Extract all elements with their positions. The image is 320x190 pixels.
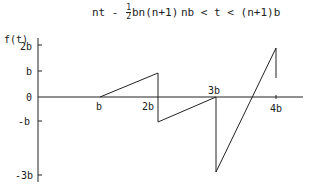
y-tick-2b: 2b	[20, 41, 32, 52]
x-tick-b: b	[96, 101, 102, 112]
y-tick-minus-3b: -3b	[15, 170, 33, 181]
y-tick-0: 0	[26, 92, 32, 103]
sawtooth-curve	[100, 48, 276, 172]
y-tick-b: b	[26, 66, 32, 77]
y-ticks	[38, 45, 42, 175]
x-tick-3b: 3b	[208, 85, 220, 96]
sawtooth-plot: f(t) 2b b 0 -b -3b b 2b 3b 4b	[0, 0, 320, 190]
x-tick-2b: 2b	[142, 101, 154, 112]
x-tick-4b: 4b	[270, 103, 282, 114]
y-tick-minus-b: -b	[18, 116, 30, 127]
